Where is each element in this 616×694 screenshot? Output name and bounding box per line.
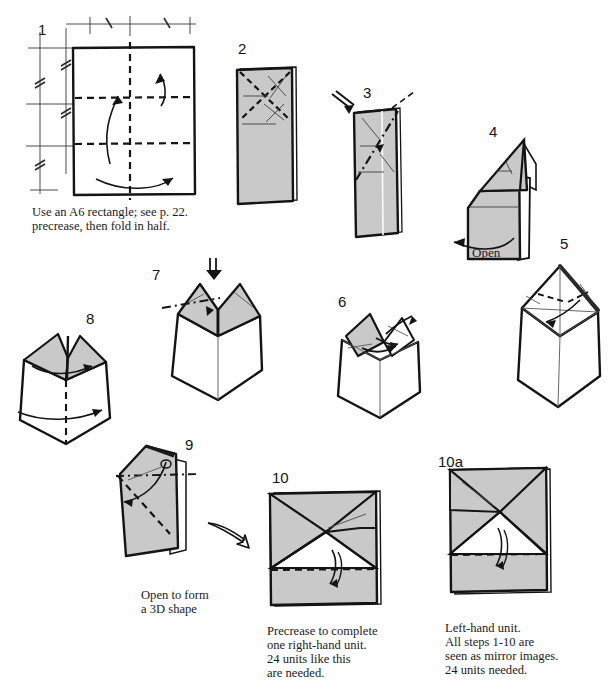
figure-step-6	[328, 300, 443, 425]
caption-step-9-line1: Open to form	[141, 588, 209, 602]
figure-step-10a	[442, 462, 572, 602]
step-number-10: 10	[272, 470, 289, 485]
caption-step-10-line4: are needed.	[267, 666, 324, 680]
caption-step-10-line3: 24 units like this	[267, 652, 351, 666]
caption-step-9-line2: a 3D shape	[141, 602, 197, 616]
diagram-page: 1	[0, 0, 616, 694]
caption-step-10a-line2: All steps 1-10 are	[445, 635, 534, 649]
figure-step-3	[326, 88, 426, 243]
caption-step-10a-line1: Left-hand unit.	[445, 621, 521, 635]
transition-arrow-icon	[205, 518, 255, 552]
caption-step-10-line1: Precrease to complete	[267, 624, 378, 638]
caption-step-1-line1: Use an A6 rectangle; see p. 22.	[32, 205, 188, 219]
figure-step-10	[262, 488, 392, 610]
caption-step-10a-line4: 24 units needed.	[445, 663, 527, 677]
step-number-2: 2	[238, 41, 246, 56]
step-number-5: 5	[560, 236, 568, 251]
figure-step-7	[160, 258, 280, 408]
figure-step-2	[228, 62, 308, 207]
caption-step-1-line2: precrease, then fold in half.	[32, 219, 170, 233]
caption-step-10a-line3: seen as mirror images.	[445, 649, 558, 663]
figure-step-1	[18, 14, 218, 209]
caption-step-4: Open	[472, 245, 500, 261]
figure-step-5	[506, 252, 616, 417]
figure-step-8	[14, 320, 134, 450]
caption-step-10-line2: one right-hand unit.	[267, 638, 367, 652]
